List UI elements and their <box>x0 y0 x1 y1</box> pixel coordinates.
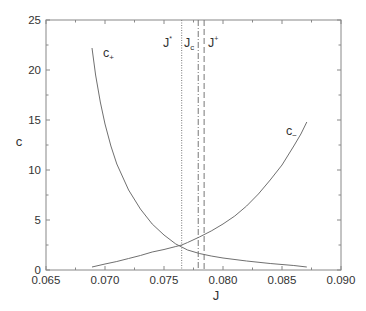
data-series <box>92 48 307 267</box>
x-axis-label: J <box>213 288 220 303</box>
y-tick-label: 5 <box>35 214 41 226</box>
chart: 0.0650.0700.0750.0800.0850.090 051015202… <box>0 0 366 311</box>
series-c-minus <box>92 122 307 267</box>
y-tick-label: 15 <box>28 114 41 126</box>
x-tick-label: 0.075 <box>150 274 179 286</box>
label-j-star: J* <box>163 35 172 50</box>
x-tick-label: 0.090 <box>327 274 356 286</box>
vertical-reference-lines <box>182 20 204 270</box>
y-tick-label: 25 <box>28 14 41 26</box>
plot-border <box>46 20 341 270</box>
x-axis-ticks: 0.0650.0700.0750.0800.0850.090 <box>32 20 356 286</box>
label-j-plus: J+ <box>208 35 218 50</box>
series-c-plus <box>92 48 307 267</box>
label-c-minus: c− <box>286 124 297 140</box>
y-tick-label: 10 <box>28 164 41 176</box>
annotations: c+c−J*JcJ+ <box>103 35 297 140</box>
y-axis-label: c <box>16 134 23 149</box>
label-j-c: Jc <box>184 36 194 52</box>
y-tick-label: 20 <box>28 64 41 76</box>
plot-frame <box>46 20 341 270</box>
x-tick-label: 0.085 <box>268 274 297 286</box>
label-c-plus: c+ <box>103 46 114 62</box>
y-tick-label: 0 <box>35 264 41 276</box>
x-tick-label: 0.070 <box>91 274 120 286</box>
x-tick-label: 0.080 <box>209 274 238 286</box>
